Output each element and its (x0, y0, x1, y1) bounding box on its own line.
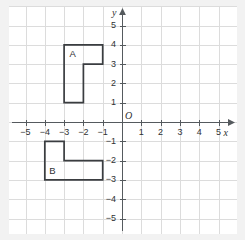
y-tick-label-2: 2 (111, 79, 116, 88)
y-tick-label--5: −5 (106, 214, 116, 223)
coordinate-plane-figure: −5−4−3−2−11234554321−1−2−3−4−5yxOAB (0, 0, 245, 240)
x-tick-label-2: 2 (158, 128, 163, 137)
y-tick-label-3: 3 (111, 60, 116, 69)
x-tick-label--4: −4 (40, 128, 50, 137)
shape-label-a: A (70, 49, 76, 59)
x-tick-label-5: 5 (216, 128, 221, 137)
y-axis-label: y (112, 8, 116, 18)
origin-label: O (125, 111, 132, 121)
x-tick-label--5: −5 (20, 128, 30, 137)
plot-area: −5−4−3−2−11234554321−1−2−3−4−5yxOAB (9, 6, 237, 234)
x-axis-label: x (224, 128, 228, 138)
shape-label-b: B (49, 166, 55, 176)
y-tick-label-4: 4 (111, 40, 116, 49)
y-tick-label--4: −4 (106, 195, 116, 204)
y-tick-label--1: −1 (106, 137, 116, 146)
x-tick-label-4: 4 (197, 128, 202, 137)
x-tick-label-1: 1 (139, 128, 144, 137)
y-tick-label-1: 1 (111, 98, 116, 107)
x-tick-label--2: −2 (78, 128, 88, 137)
y-tick-label--2: −2 (106, 156, 116, 165)
plotted-shapes (9, 6, 237, 234)
x-tick-label-3: 3 (177, 128, 182, 137)
y-tick-label--3: −3 (106, 175, 116, 184)
x-tick-label--3: −3 (59, 128, 69, 137)
y-tick-label-5: 5 (111, 21, 116, 30)
